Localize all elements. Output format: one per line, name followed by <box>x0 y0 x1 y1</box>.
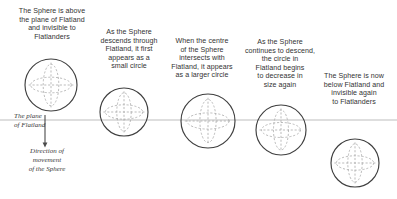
caption-sphere-above: The Sphere is above the plane of Flatlan… <box>6 7 98 41</box>
plane-of-flatland-label: The plane of Flatland <box>14 112 45 130</box>
sphere-above-plane <box>25 59 77 111</box>
sphere-below-plane <box>331 139 379 187</box>
direction-of-movement-label: Direction of movement of the Sphere <box>12 147 82 173</box>
caption-sphere-below: The Sphere is now below Flatland and inv… <box>312 72 396 106</box>
caption-decreasing-circle: As the Sphere continues to descend, the … <box>238 38 322 90</box>
caption-centre-larger-circle: When the centre of the Sphere intersects… <box>161 37 243 80</box>
sphere-entering-plane <box>100 88 148 136</box>
caption-first-small-circle: As the Sphere descends through Flatland,… <box>90 28 168 71</box>
figure-canvas: The Sphere is above the plane of Flatlan… <box>0 0 397 199</box>
sphere-centre-at-plane <box>181 94 235 148</box>
sphere-exiting-plane <box>256 105 306 155</box>
